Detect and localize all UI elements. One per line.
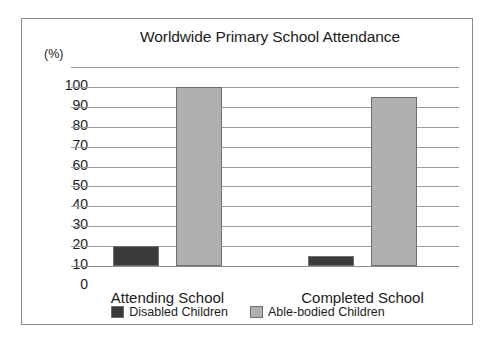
plot-area (71, 67, 459, 266)
bar-completed-school-disabled-children (308, 256, 354, 266)
category-label-completed-school: Completed School (263, 289, 463, 306)
category-label-attending-school: Attending School (68, 289, 268, 306)
legend-label: Disabled Children (129, 305, 228, 319)
bar-completed-school-able-bodied-children (371, 97, 417, 266)
legend-item-able-bodied-children[interactable]: Able-bodied Children (250, 305, 385, 319)
chart-frame: Worldwide Primary School Attendance (%) … (21, 18, 473, 325)
legend-item-disabled-children[interactable]: Disabled Children (111, 305, 228, 319)
legend-swatch-icon (111, 306, 124, 318)
gridline-90 (71, 87, 459, 88)
legend-swatch-icon (250, 306, 263, 318)
chart-title-text: Worldwide Primary School Attendance (140, 28, 400, 45)
gridline-0 (71, 266, 459, 267)
y-axis-unit-label: (%) (44, 47, 63, 61)
legend-label: Able-bodied Children (268, 305, 385, 319)
gridline-100 (71, 67, 459, 68)
bar-attending-school-disabled-children (113, 246, 159, 266)
bar-attending-school-able-bodied-children (176, 87, 222, 266)
chart-title: Worldwide Primary School Attendance (22, 28, 474, 46)
chart-legend: Disabled ChildrenAble-bodied Children (22, 305, 474, 319)
